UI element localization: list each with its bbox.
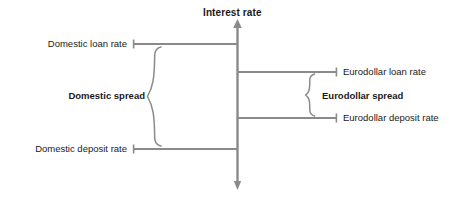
domestic-spread-brace bbox=[148, 47, 162, 146]
axis-arrow-down-icon bbox=[234, 181, 241, 190]
eurodollar-loan-rate-label: Eurodollar loan rate bbox=[343, 67, 426, 77]
eurodollar-deposit-rate-label: Eurodollar deposit rate bbox=[343, 113, 439, 123]
eurodollar-spread-label: Eurodollar spread bbox=[322, 91, 403, 101]
domestic-spread-label: Domestic spread bbox=[0, 91, 145, 101]
axis-arrow-up-icon bbox=[233, 19, 242, 28]
interest-rate-spread-diagram: Interest rate Domestic loan rate Domesti… bbox=[0, 0, 465, 199]
page-title: Interest rate bbox=[203, 8, 262, 18]
domestic-loan-rate-label: Domestic loan rate bbox=[0, 39, 127, 49]
domestic-deposit-rate-label: Domestic deposit rate bbox=[0, 144, 127, 154]
eurodollar-spread-brace bbox=[306, 74, 315, 116]
